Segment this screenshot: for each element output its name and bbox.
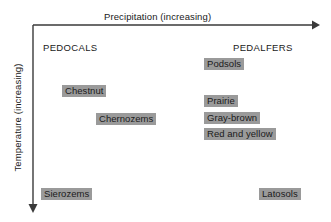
group-header-pedalfers: PEDALFERS (233, 42, 293, 53)
soil-chip-sierozems[interactable]: Sierozems (41, 188, 92, 200)
soil-classification-diagram: Precipitation (increasing) Temperature (… (0, 0, 331, 222)
horizontal-axis-title: Precipitation (increasing) (104, 11, 211, 22)
soil-chip-podsols[interactable]: Podsols (204, 58, 244, 70)
soil-chip-red-and-yellow[interactable]: Red and yellow (204, 128, 276, 140)
vertical-axis-arrowhead (29, 204, 38, 213)
soil-chip-gray-brown[interactable]: Gray-brown (204, 112, 260, 124)
vertical-axis-title: Temperature (increasing) (12, 54, 23, 182)
soil-chip-prairie[interactable]: Prairie (204, 95, 238, 107)
horizontal-axis-arrowhead (312, 21, 320, 30)
soil-chip-latosols[interactable]: Latosols (259, 188, 301, 200)
soil-chip-chernozems[interactable]: Chernozems (96, 113, 156, 125)
group-header-pedocals: PEDOCALS (43, 42, 98, 53)
soil-chip-chestnut[interactable]: Chestnut (62, 85, 106, 97)
